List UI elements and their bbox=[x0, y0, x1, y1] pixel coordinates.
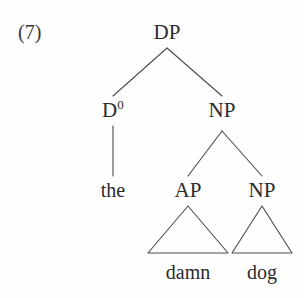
terminal-dog: dog bbox=[247, 262, 277, 282]
branch-dp-to-np bbox=[167, 48, 222, 96]
ap-triangle bbox=[148, 206, 228, 253]
branch-np-to-np bbox=[222, 131, 262, 176]
node-d0-base: D bbox=[102, 98, 117, 122]
node-d0: D0 bbox=[102, 100, 124, 121]
terminal-the: the bbox=[101, 180, 125, 200]
node-ap: AP bbox=[174, 180, 201, 201]
tree-branch-layer bbox=[0, 0, 304, 298]
branch-np-to-ap bbox=[188, 131, 222, 176]
np-triangle bbox=[232, 206, 292, 253]
node-d0-superscript: 0 bbox=[117, 97, 124, 112]
branch-dp-to-d0 bbox=[113, 48, 167, 96]
node-np-mid: NP bbox=[208, 100, 235, 121]
node-dp-root: DP bbox=[153, 22, 180, 43]
terminal-damn: damn bbox=[166, 262, 210, 282]
syntax-tree-figure: (7) DP D0 NP the AP NP damn dog bbox=[0, 0, 304, 298]
node-np-lower: NP bbox=[248, 180, 275, 201]
